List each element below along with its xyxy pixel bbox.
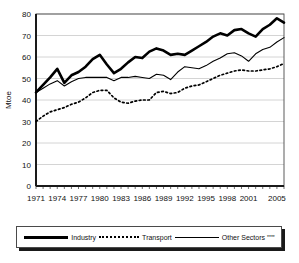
x-tick-2001: 2001 [240,194,258,203]
legend-swatch-transport-icon [97,233,141,241]
legend-label-other-sectors: Other Sectors [221,234,266,241]
legend-swatch-industry-icon [22,233,70,241]
x-tick-1974: 1974 [48,194,66,203]
x-tick-1998: 1998 [218,194,236,203]
data-series [36,18,284,121]
y-tick-40: 40 [22,96,31,105]
y-tick-80: 80 [22,10,31,19]
y-tick-30: 30 [22,118,31,127]
legend-swatch-other-sectors-icon [173,233,221,241]
legend-item-industry: Industry [22,233,97,241]
y-axis-label: Mtoe [4,91,13,109]
y-tick-50: 50 [22,75,31,84]
y-tick-10: 10 [22,161,31,170]
legend-item-other-sectors: Other Sectors**** [173,233,276,241]
y-tick-60: 60 [22,53,31,62]
x-axis-tick-labels: 1971197419771980198319861989199219951998… [27,194,286,203]
y-axis-label-text: Mtoe [4,91,13,109]
x-tick-1986: 1986 [133,194,151,203]
x-tick-1983: 1983 [112,194,130,203]
y-tick-20: 20 [22,139,31,148]
y-tick-0: 0 [27,182,32,191]
x-tick-1980: 1980 [91,194,109,203]
x-tick-1989: 1989 [155,194,173,203]
figure: 01020304050607080 1971197419771980198319… [0,0,299,263]
line-chart: 01020304050607080 1971197419771980198319… [0,0,299,212]
y-axis-tick-labels: 01020304050607080 [22,10,31,191]
x-tick-1992: 1992 [176,194,194,203]
legend-label-industry: Industry [70,234,97,241]
x-tick-1977: 1977 [70,194,88,203]
y-tick-70: 70 [22,32,31,41]
gridlines [36,14,284,165]
legend-label-transport: Transport [141,234,173,241]
series-line-other-sectors [36,38,284,93]
x-tick-1995: 1995 [197,194,215,203]
chart-legend: Industry Transport Other Sectors**** [16,226,282,248]
chart-svg: 01020304050607080 1971197419771980198319… [0,0,299,212]
series-line-transport [36,63,284,121]
x-tick-2005: 2005 [268,194,286,203]
x-tick-1971: 1971 [27,194,45,203]
legend-item-transport: Transport [97,233,173,241]
legend-label-other-sectors-footnote: **** [266,234,276,240]
